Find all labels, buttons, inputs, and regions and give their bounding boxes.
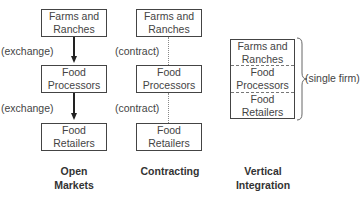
box-label-line2: Ranches	[148, 23, 189, 35]
contracting-farms-box: Farms andRanches	[136, 9, 202, 37]
arrow-head-icon	[71, 113, 77, 120]
box-label-line2: Retailers	[53, 137, 94, 149]
box-label-line1: Food	[62, 124, 86, 136]
open-markets-retailers-box: FoodRetailers	[41, 123, 107, 151]
arrow-head-icon	[71, 56, 77, 63]
contracting-processors-box: FoodProcessors	[136, 65, 202, 93]
exchange-label-2: (exchange)	[1, 102, 54, 114]
box-label-line2: Processors	[143, 79, 196, 91]
exchange-arrow-2	[73, 93, 75, 114]
contract-link-1	[168, 37, 169, 65]
box-label-line1: Farms and	[144, 10, 194, 22]
box-label-line2: Processors	[48, 79, 101, 91]
exchange-arrow-1	[73, 37, 75, 57]
contract-link-2	[168, 93, 169, 123]
vi-farms-cell: Farms andRanches	[231, 40, 294, 66]
box-label-line2: Ranches	[53, 23, 94, 35]
contract-label-1: (contract)	[115, 45, 159, 57]
box-label-line1: Food	[157, 124, 181, 136]
open-markets-title: OpenMarkets	[44, 164, 104, 192]
contract-label-2: (contract)	[115, 102, 159, 114]
box-label-line1: Food	[62, 66, 86, 78]
vertical-integration-firm-box: Farms andRanches FoodProcessors FoodReta…	[230, 39, 295, 119]
vi-retailers-cell: FoodRetailers	[231, 93, 294, 118]
box-label-line1: Farms and	[49, 10, 99, 22]
contracting-retailers-box: FoodRetailers	[136, 123, 202, 151]
vertical-integration-title: VerticalIntegration	[227, 164, 299, 192]
contracting-title: Contracting	[130, 164, 210, 178]
exchange-label-1: (exchange)	[1, 45, 54, 57]
open-markets-farms-box: Farms andRanches	[41, 9, 107, 37]
open-markets-processors-box: FoodProcessors	[41, 65, 107, 93]
single-firm-label: (single firm)	[305, 72, 360, 84]
box-label-line1: Food	[157, 66, 181, 78]
vi-processors-cell: FoodProcessors	[231, 66, 294, 92]
box-label-line2: Retailers	[148, 137, 189, 149]
